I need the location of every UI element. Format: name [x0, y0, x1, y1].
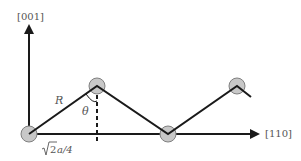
chain-diagram: [001] [110] R θ 2 a/4: [0, 0, 301, 161]
angle-label: θ: [82, 105, 89, 118]
half-spacing-label: 2 a/4: [42, 142, 73, 155]
sqrt-rest: a/4: [57, 144, 73, 155]
axis-label-001: [001]: [17, 11, 44, 22]
sqrt-radicand: 2: [50, 144, 56, 155]
axis-label-110: [110]: [265, 128, 292, 139]
bond-length-label: R: [54, 94, 63, 107]
angle-arc: [86, 94, 97, 102]
